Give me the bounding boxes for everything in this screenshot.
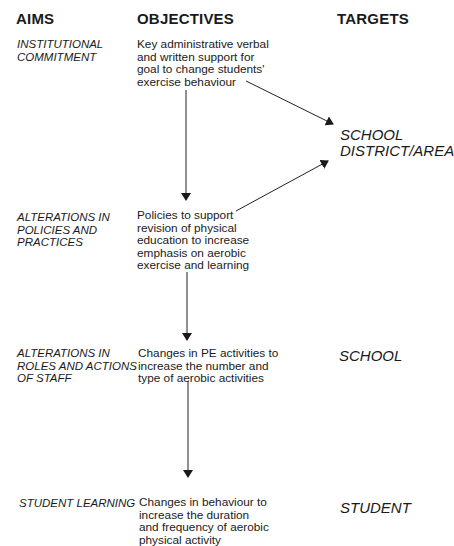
objective-administrative-support: Key administrative verbal and written su… [137, 38, 269, 88]
objective-pe-activities: Changes in PE activities to increase the… [138, 347, 278, 385]
aim-institutional-commitment: INSTITUTIONAL COMMITMENT [17, 38, 103, 63]
aim-roles-actions-staff: ALTERATIONS IN ROLES AND ACTIONS OF STAF… [17, 347, 137, 385]
arrow-policies-to-district [236, 161, 328, 211]
aim-policies-practices: ALTERATIONS IN POLICIES AND PRACTICES [17, 211, 110, 249]
target-student: STUDENT [340, 500, 411, 516]
target-school: SCHOOL [339, 348, 402, 364]
aim-student-learning: STUDENT LEARNING [19, 497, 135, 510]
header-aims: AIMS [16, 10, 54, 27]
header-targets: TARGETS [337, 10, 409, 27]
target-school-district-area: SCHOOL DISTRICT/AREA [340, 127, 454, 159]
objective-behaviour-change: Changes in behaviour to increase the dur… [139, 496, 269, 546]
objective-policies-support: Policies to support revision of physical… [137, 209, 249, 272]
header-objectives: OBJECTIVES [137, 10, 234, 27]
